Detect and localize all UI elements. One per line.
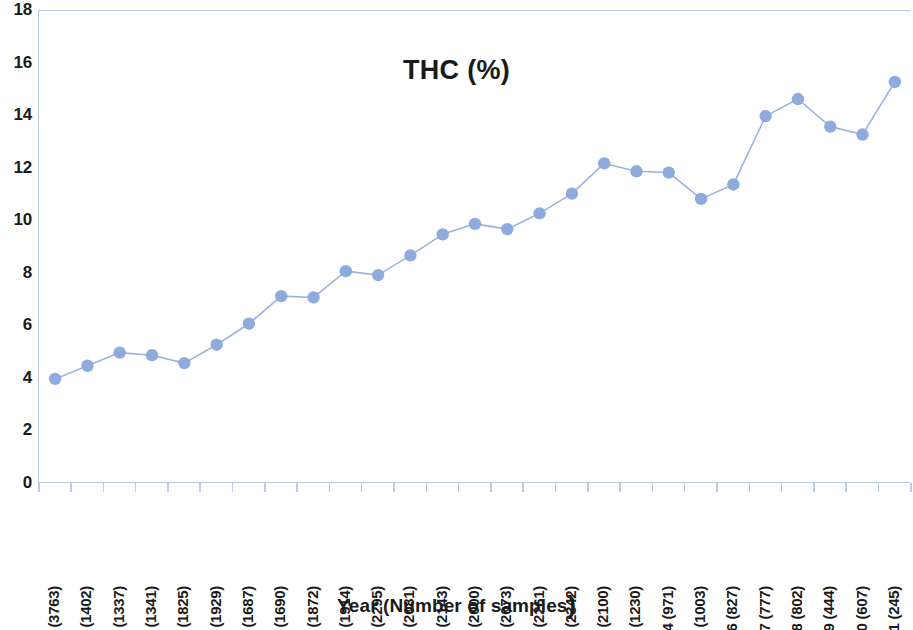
data-point[interactable] (275, 290, 287, 302)
x-tick-mark (361, 483, 363, 492)
data-point[interactable] (889, 76, 901, 88)
x-axis-title: Year (Number of samples) (0, 595, 913, 617)
x-tick-mark (652, 483, 654, 492)
y-tick-label: 6 (0, 316, 32, 333)
plot-area (38, 10, 910, 483)
data-point[interactable] (469, 218, 481, 230)
y-tick-label: 14 (0, 106, 32, 123)
x-axis-tick-labels: 1995 (3763)1996 (1402)1997 (1337)1998 (1… (38, 494, 910, 586)
x-tick-mark (264, 483, 266, 492)
data-point[interactable] (307, 291, 319, 303)
x-tick-mark (813, 483, 815, 492)
data-point[interactable] (146, 349, 158, 361)
x-tick-mark (38, 483, 40, 492)
series-line (55, 82, 895, 379)
x-tick-mark (426, 483, 428, 492)
y-tick-label: 0 (0, 474, 32, 491)
data-point[interactable] (49, 373, 61, 385)
x-axis-title-paren: ) (567, 591, 575, 619)
x-tick-mark (135, 483, 137, 492)
x-tick-mark (167, 483, 169, 492)
data-point[interactable] (178, 357, 190, 369)
data-point[interactable] (533, 207, 545, 219)
y-axis-tick-labels: 181614121086420 (0, 0, 34, 494)
plot-svg (39, 11, 911, 484)
y-tick-label: 2 (0, 421, 32, 438)
x-tick-mark (458, 483, 460, 492)
y-tick-label: 4 (0, 369, 32, 386)
data-point[interactable] (437, 228, 449, 240)
y-tick-label: 18 (0, 1, 32, 18)
x-tick-mark (845, 483, 847, 492)
x-tick-mark (490, 483, 492, 492)
x-tick-mark (684, 483, 686, 492)
data-point[interactable] (210, 339, 222, 351)
data-point[interactable] (856, 128, 868, 140)
data-point[interactable] (598, 157, 610, 169)
data-point[interactable] (630, 165, 642, 177)
y-tick-label: 16 (0, 54, 32, 71)
data-point[interactable] (566, 187, 578, 199)
x-tick-mark (878, 483, 880, 492)
x-tick-mark (910, 483, 912, 492)
x-tick-mark (749, 483, 751, 492)
data-point[interactable] (727, 178, 739, 190)
x-tick-mark (619, 483, 621, 492)
x-tick-mark (555, 483, 557, 492)
data-point[interactable] (372, 269, 384, 281)
x-tick-mark (199, 483, 201, 492)
thc-line-chart: 181614121086420 THC (%) 1995 (3763)1996 … (0, 0, 913, 630)
x-tick-mark (781, 483, 783, 492)
x-tick-mark (329, 483, 331, 492)
y-tick-label: 8 (0, 264, 32, 281)
y-tick-label: 12 (0, 159, 32, 176)
x-axis-tick-marks (38, 483, 910, 492)
data-point[interactable] (81, 360, 93, 372)
x-tick-mark (522, 483, 524, 492)
data-point[interactable] (340, 265, 352, 277)
x-tick-mark (296, 483, 298, 492)
x-tick-mark (393, 483, 395, 492)
data-point[interactable] (695, 193, 707, 205)
x-tick-mark (103, 483, 105, 492)
data-point[interactable] (792, 93, 804, 105)
data-point[interactable] (243, 318, 255, 330)
x-tick-mark (587, 483, 589, 492)
data-point[interactable] (114, 346, 126, 358)
y-tick-label: 10 (0, 211, 32, 228)
x-tick-mark (232, 483, 234, 492)
data-point[interactable] (404, 249, 416, 261)
data-point[interactable] (663, 166, 675, 178)
data-point[interactable] (759, 110, 771, 122)
x-tick-mark (716, 483, 718, 492)
data-point[interactable] (501, 223, 513, 235)
data-point[interactable] (824, 120, 836, 132)
x-tick-mark (70, 483, 72, 492)
